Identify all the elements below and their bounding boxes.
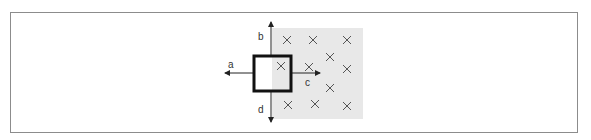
label-b: b xyxy=(258,31,264,42)
loop-field-diagram: a b c d xyxy=(0,0,591,140)
label-a: a xyxy=(228,59,234,70)
label-c: c xyxy=(305,77,310,88)
label-d: d xyxy=(258,104,264,115)
loop-interior-outside-field xyxy=(255,57,272,90)
